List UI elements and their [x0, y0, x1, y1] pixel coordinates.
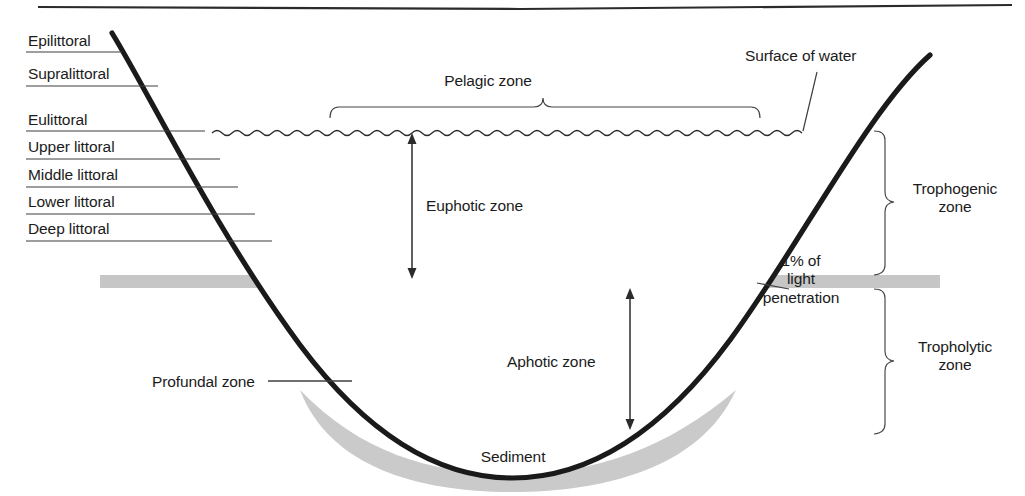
surface-of-water-leader: [803, 72, 817, 131]
littoral-label: Middle littoral: [28, 166, 118, 184]
tropholytic-zone-line-1: Tropholytic: [887, 338, 1023, 356]
littoral-label: Epilittoral: [28, 32, 91, 50]
sediment-label: Sediment: [481, 448, 546, 466]
light-penetration-line-3: penetration: [736, 289, 866, 307]
pelagic-zone-label: Pelagic zone: [444, 72, 532, 90]
littoral-label: Lower littoral: [28, 193, 114, 211]
profundal-zone-label: Profundal zone: [152, 373, 255, 391]
trophogenic-zone-line-1: Trophogenic: [887, 180, 1023, 198]
light-penetration-line-1: 1% of: [736, 252, 866, 270]
aphotic-zone-label: Aphotic zone: [507, 353, 595, 371]
euphotic-zone-arrow: [408, 133, 417, 279]
water-surface-wave: [212, 131, 802, 136]
lake-zonation-diagram: EpilittoralSupralittoralEulittoralUpper …: [0, 0, 1025, 496]
euphotic-zone-label: Euphotic zone: [426, 197, 523, 215]
pelagic-zone-brace: [330, 98, 760, 118]
littoral-label: Upper littoral: [28, 138, 114, 156]
trophogenic-zone-line-2: zone: [887, 198, 1023, 216]
top-rule: [38, 5, 1012, 9]
littoral-label: Eulittoral: [28, 111, 87, 129]
tropholytic-zone-line-2: zone: [887, 356, 1023, 374]
littoral-label: Supralittoral: [28, 65, 109, 83]
littoral-label: Deep littoral: [28, 220, 109, 238]
aphotic-zone-arrow: [626, 288, 635, 430]
light-penetration-line-2: light: [736, 270, 866, 288]
light-penetration-label: 1% of light penetration: [736, 252, 866, 307]
surface-of-water-label: Surface of water: [745, 47, 856, 65]
tropholytic-zone-label: Tropholytic zone: [887, 338, 1023, 375]
trophogenic-zone-label: Trophogenic zone: [887, 180, 1023, 217]
